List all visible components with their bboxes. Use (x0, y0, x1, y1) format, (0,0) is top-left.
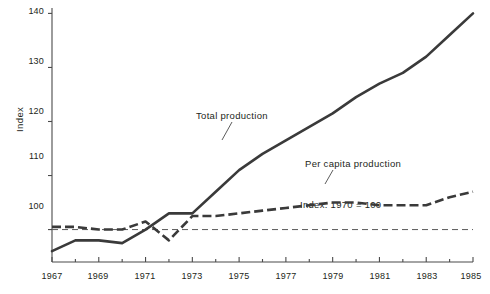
series-line-per-capita-production (52, 192, 473, 241)
total-production-leader-line (222, 122, 232, 140)
series-line-total-production (52, 13, 473, 251)
plot-area (0, 0, 490, 294)
per-capita-production-leader-line (325, 170, 333, 184)
chart-container: Index 140 130 120 110 100 1967 1969 1971… (0, 0, 490, 294)
y-tick-marks (48, 13, 52, 229)
x-tick-marks (52, 257, 473, 262)
